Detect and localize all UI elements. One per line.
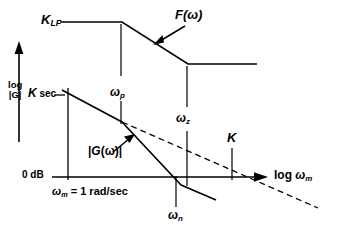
omega-n-label: ωn — [168, 209, 183, 223]
zero-db-axis — [52, 172, 268, 182]
f-omega-pointer-arrow — [153, 26, 185, 45]
f-omega-label: F(ω) — [175, 8, 202, 21]
g-magnitude-curve — [62, 90, 216, 200]
g-omega-label: |G(ω)| — [88, 145, 122, 157]
plot-canvas — [0, 0, 337, 234]
bode-plot-figure: KLF F(ω) log |G| K sec ωp ωz |G(ω)| K 0 … — [0, 0, 337, 234]
k-sec-label: K sec — [28, 87, 56, 99]
omega-m-unity-label: ωm = 1 rad/sec — [52, 186, 128, 198]
k-lf-label: KLF — [41, 13, 61, 28]
k-gain-label: K — [227, 131, 236, 144]
omega-z-label: ωz — [176, 112, 190, 126]
zero-db-label: 0 dB — [22, 170, 44, 180]
y-axis-label: log |G| — [8, 80, 22, 99]
x-axis-label: log ωm — [274, 169, 312, 183]
k-asymptote-dashed — [122, 122, 318, 208]
omega-p-label: ωp — [110, 86, 125, 100]
y-axis-label-line2: |G| — [8, 90, 22, 100]
